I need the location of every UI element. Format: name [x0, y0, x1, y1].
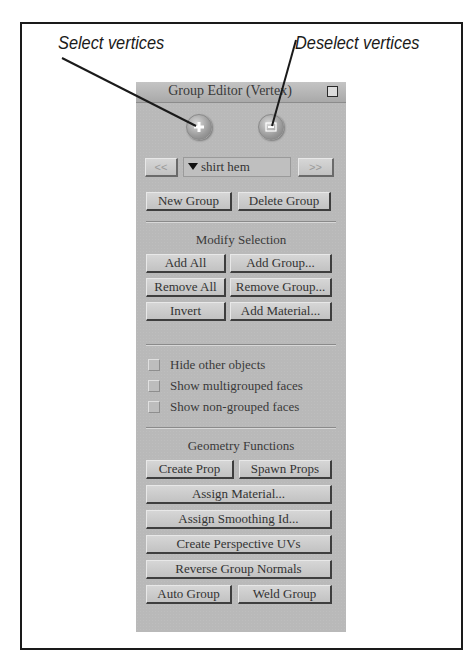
remove-group-button[interactable]: Remove Group...	[230, 278, 332, 297]
callout-select-vertices: Select vertices	[58, 32, 164, 54]
group-editor-panel: Group Editor (Vertex) << shirt hem >> Ne…	[136, 82, 346, 632]
previous-group-button[interactable]: <<	[145, 158, 178, 177]
show-non-grouped-faces-option[interactable]: Show non-grouped faces	[148, 399, 299, 415]
divider	[146, 427, 336, 429]
reverse-group-normals-button[interactable]: Reverse Group Normals	[146, 560, 332, 579]
panel-title: Group Editor (Vertex)	[136, 83, 324, 99]
assign-smoothing-id-button[interactable]: Assign Smoothing Id...	[146, 510, 332, 529]
delete-group-button[interactable]: Delete Group	[238, 192, 331, 211]
divider	[146, 344, 336, 346]
title-bar[interactable]: Group Editor (Vertex)	[136, 82, 346, 103]
divider	[146, 221, 336, 223]
weld-group-button[interactable]: Weld Group	[238, 585, 332, 604]
assign-material-button[interactable]: Assign Material...	[146, 485, 332, 504]
add-group-button[interactable]: Add Group...	[230, 254, 332, 273]
hide-other-objects-option[interactable]: Hide other objects	[148, 357, 265, 373]
show-non-grouped-faces-label: Show non-grouped faces	[170, 399, 299, 415]
plus-icon	[193, 121, 205, 133]
show-non-grouped-faces-checkbox[interactable]	[148, 401, 160, 413]
remove-all-button[interactable]: Remove All	[146, 278, 226, 297]
geometry-functions-heading: Geometry Functions	[136, 438, 346, 454]
invert-button[interactable]: Invert	[146, 302, 226, 321]
deselect-vertices-button[interactable]	[258, 114, 284, 140]
minus-box-icon	[265, 122, 277, 132]
auto-group-button[interactable]: Auto Group	[146, 585, 232, 604]
show-multigrouped-faces-option[interactable]: Show multigrouped faces	[148, 378, 303, 394]
hide-other-objects-label: Hide other objects	[170, 357, 265, 373]
hide-other-objects-checkbox[interactable]	[148, 359, 160, 371]
next-group-button[interactable]: >>	[298, 158, 334, 177]
window-toggle-button[interactable]	[327, 86, 338, 97]
group-select-dropdown[interactable]: shirt hem	[183, 157, 291, 177]
group-select-value: shirt hem	[201, 159, 250, 174]
select-vertices-button[interactable]	[186, 114, 212, 140]
spawn-props-button[interactable]: Spawn Props	[239, 460, 332, 479]
callout-deselect-vertices: Deselect vertices	[295, 32, 419, 54]
add-all-button[interactable]: Add All	[146, 254, 226, 273]
dropdown-triangle-icon	[188, 163, 198, 170]
create-perspective-uvs-button[interactable]: Create Perspective UVs	[146, 535, 332, 554]
modify-selection-heading: Modify Selection	[136, 232, 346, 248]
new-group-button[interactable]: New Group	[146, 192, 232, 211]
add-material-button[interactable]: Add Material...	[230, 302, 332, 321]
show-multigrouped-faces-label: Show multigrouped faces	[170, 378, 303, 394]
create-prop-button[interactable]: Create Prop	[146, 460, 234, 479]
show-multigrouped-faces-checkbox[interactable]	[148, 380, 160, 392]
